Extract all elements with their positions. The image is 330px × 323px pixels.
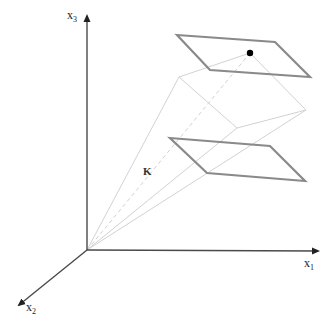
axes — [19, 16, 318, 305]
marked-point — [247, 50, 253, 56]
x2-axis — [19, 250, 87, 305]
diagram-canvas: x3 x1 x2 K — [0, 0, 330, 323]
cone-label: K — [143, 165, 152, 177]
x3-axis-label: x3 — [67, 8, 77, 24]
lower-plane — [170, 138, 305, 181]
cone-K — [87, 53, 306, 250]
x2-axis-label: x2 — [26, 300, 36, 316]
x1-axis-label: x1 — [304, 256, 314, 272]
x1-axis — [87, 250, 318, 251]
